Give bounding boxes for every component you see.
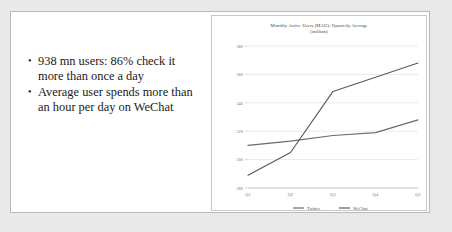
y-axis-tick-label: 280 [236,186,243,191]
bullet-marker-icon: • [28,54,32,69]
x-axis-tick-label: Q3 [330,192,336,197]
legend-label-twitter: Twitter [307,206,320,211]
plot-area: 280300320340360380Q1Q2Q3Q4Q1TwitterWeCha… [212,16,426,210]
list-item: • 938 mn users: 86% check it more than o… [27,54,195,83]
bullet-text: 938 mn users: 86% check it more than onc… [38,54,175,83]
x-axis-tick-label: Q4 [373,192,379,197]
bullet-text: Average user spends more than an hour pe… [38,85,193,114]
line-chart-svg: 280300320340360380Q1Q2Q3Q4Q1TwitterWeCha… [212,16,428,212]
bullet-list: • 938 mn users: 86% check it more than o… [27,54,195,114]
presentation-slide: • 938 mn users: 86% check it more than o… [10,11,430,213]
chart-panel: Monthly Active Users (MAU): Quarterly Av… [211,15,427,211]
legend-label-wechat: WeChat [353,206,368,211]
bullet-list-container: • 938 mn users: 86% check it more than o… [27,54,195,116]
series-line-twitter [248,120,418,146]
y-axis-tick-label: 380 [236,44,243,49]
y-axis-tick-label: 320 [236,129,243,134]
x-axis-tick-label: Q1 [245,192,250,197]
y-axis-tick-label: 300 [236,157,243,162]
x-axis-tick-label: Q2 [288,192,293,197]
bullet-marker-icon: • [28,85,32,100]
y-axis-tick-label: 340 [236,101,243,106]
x-axis-tick-label: Q1 [415,192,420,197]
list-item: • Average user spends more than an hour … [27,85,195,114]
y-axis-tick-label: 360 [236,72,243,77]
series-line-wechat [248,63,418,175]
